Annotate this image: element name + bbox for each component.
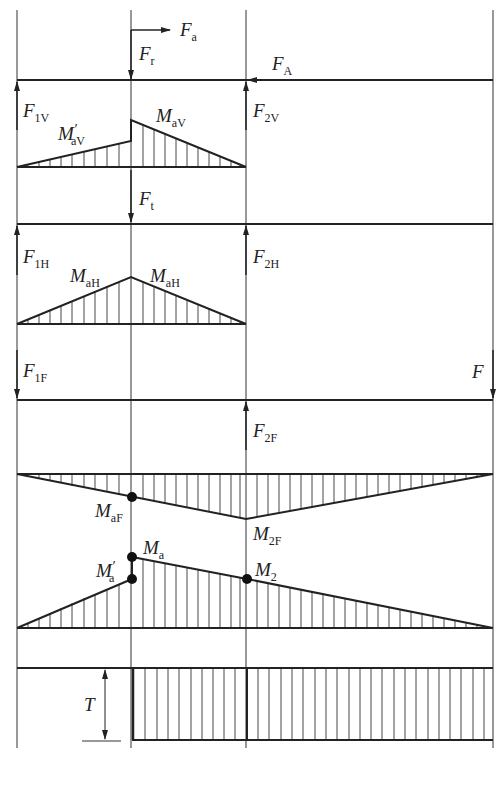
Ma-point — [127, 552, 137, 562]
combined-moment-diagram: Ma M′a M2 — [17, 537, 493, 628]
label-T: T — [84, 694, 96, 715]
label-F1H: F1H — [22, 246, 50, 271]
vertical-plane-forces: Fa Fr FA F1V F2V — [17, 19, 493, 130]
label-F2V: F2V — [252, 100, 280, 125]
label-Fa: Fa — [179, 19, 198, 44]
M2-point — [242, 574, 252, 584]
label-FA: FA — [271, 53, 293, 78]
torque-diagram: T — [17, 668, 493, 741]
MaF-point — [127, 492, 137, 502]
label-MaV: MaV — [155, 105, 186, 130]
label-MaF: MaF — [94, 500, 123, 525]
shaft-load-diagram: Fa Fr FA F1V F2V — [0, 0, 503, 800]
label-Ma-prime: M′a — [95, 559, 116, 585]
label-MaH-left: MaH — [69, 265, 100, 290]
label-F2F: F2F — [252, 420, 278, 445]
label-Ft: Ft — [138, 188, 155, 213]
Ma-prime-point — [127, 574, 137, 584]
label-F1F: F1F — [22, 360, 48, 385]
label-MaV-prime: M′aV — [57, 122, 85, 148]
label-F2H: F2H — [252, 246, 280, 271]
external-force-moment-diagram: MaF M2F — [17, 474, 493, 548]
label-M2F: M2F — [252, 523, 282, 548]
label-Fr: Fr — [138, 43, 155, 68]
label-Ma: Ma — [142, 537, 165, 562]
label-F1V: F1V — [22, 100, 50, 125]
external-force-plane: F1F F F2F — [17, 350, 493, 450]
label-F: F — [471, 361, 484, 382]
horizontal-plane-forces: Ft F1H F2H — [17, 170, 493, 275]
